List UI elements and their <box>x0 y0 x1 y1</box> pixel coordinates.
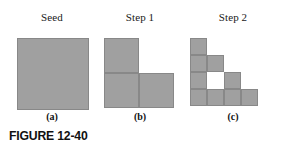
shape-cell <box>139 73 174 108</box>
panel-seed: Seed (a) <box>0 0 104 130</box>
shape-cell <box>241 89 258 106</box>
panel-step1-caption: (b) <box>96 111 184 123</box>
figure-number-label: FIGURE 12-40 <box>9 128 88 143</box>
shape-cell <box>104 73 139 108</box>
panel-step2: Step 2 (c) <box>180 0 286 130</box>
shape-cell <box>224 89 241 106</box>
panel-step1-shape <box>104 38 174 108</box>
figure-12-40: Seed (a) Step 1 (b) Step 2 (c) FIGURE 12… <box>0 0 286 150</box>
shape-cell <box>190 89 207 106</box>
shape-cell <box>207 89 224 106</box>
panel-step2-caption: (c) <box>180 111 286 123</box>
panel-seed-caption: (a) <box>0 111 104 123</box>
panel-step2-shape <box>190 38 258 108</box>
panel-seed-shape <box>17 38 89 108</box>
panel-step2-title: Step 2 <box>180 10 286 24</box>
shape-cell <box>104 38 139 73</box>
shape-cell <box>17 38 89 110</box>
shape-cell <box>190 38 207 55</box>
panel-seed-title: Seed <box>0 10 104 24</box>
shape-cell <box>190 72 207 89</box>
panel-step1-title: Step 1 <box>96 10 184 24</box>
shape-cell <box>224 72 241 89</box>
panel-step1: Step 1 (b) <box>96 0 184 130</box>
shape-cell <box>207 55 224 72</box>
shape-cell <box>190 55 207 72</box>
